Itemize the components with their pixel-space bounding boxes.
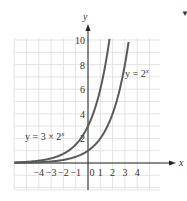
- x-tick-label: 3: [122, 167, 127, 178]
- y-axis-label: y: [82, 11, 88, 22]
- x-tick-label: −3: [46, 167, 57, 178]
- curve-2x: [14, 42, 128, 163]
- corner-mark: ▼: [181, 9, 187, 18]
- series-label-3x2x: y = 3 × 2x: [25, 130, 65, 142]
- series-label-2x-base: y = 2: [125, 68, 146, 79]
- series-label-2x-exp: x: [145, 67, 150, 75]
- series-label-3x2x-base: y = 3 × 2: [25, 131, 61, 142]
- x-axis-arrow-icon: [169, 161, 176, 166]
- x-tick-label: −1: [70, 167, 81, 178]
- x-tick-label: 4: [135, 167, 140, 178]
- series-label-3x2x-exp: x: [60, 130, 65, 138]
- x-tick-label: 1: [98, 167, 103, 178]
- exponential-chart: −4−3−2−101234246810 x y y = 2x y = 3 × 2…: [0, 0, 187, 201]
- y-tick-label: 6: [80, 84, 85, 95]
- x-tick-label: 0: [90, 167, 95, 178]
- y-tick-label: 8: [80, 60, 85, 71]
- x-tick-label: −4: [33, 167, 44, 178]
- y-tick-label: 2: [80, 133, 85, 144]
- y-tick-label: 10: [75, 35, 85, 46]
- y-tick-label: 4: [80, 109, 85, 120]
- x-tick-label: 2: [110, 167, 115, 178]
- x-tick-label: −2: [58, 167, 69, 178]
- curves: [14, 39, 128, 163]
- x-axis-label: x: [178, 157, 184, 168]
- y-axis-arrow-icon: [86, 24, 91, 31]
- tick-labels: −4−3−2−101234246810: [33, 35, 139, 178]
